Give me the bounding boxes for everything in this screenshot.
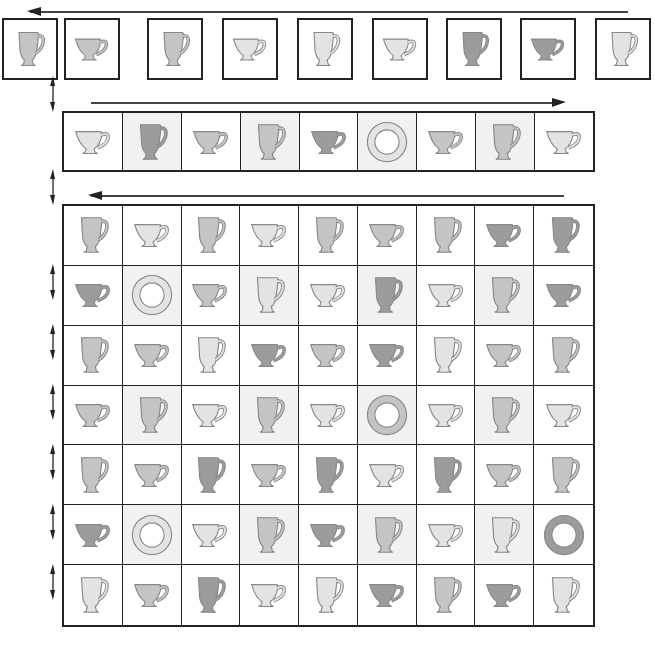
double-arrow-icon bbox=[47, 262, 59, 302]
grid-cell-plate bbox=[534, 505, 593, 565]
grid-cell-mug bbox=[475, 505, 534, 565]
mug-icon bbox=[364, 512, 410, 558]
second-row bbox=[62, 111, 595, 172]
grid-cell-teacup bbox=[417, 266, 476, 326]
grid-cell-teacup bbox=[475, 445, 534, 505]
top-row-cell-mug bbox=[595, 18, 651, 80]
mug-icon bbox=[70, 332, 116, 378]
mug-icon bbox=[8, 27, 52, 71]
top-row-cell-mug bbox=[2, 18, 58, 80]
grid-cell-teacup bbox=[358, 206, 417, 266]
grid-cell-teacup bbox=[299, 266, 358, 326]
mug-icon bbox=[303, 27, 347, 71]
second-row-cell-mug bbox=[123, 113, 182, 170]
grid-cell-mug bbox=[123, 386, 182, 446]
teacup-icon bbox=[70, 119, 116, 165]
mug-icon bbox=[187, 212, 233, 258]
grid-cell-plate bbox=[358, 386, 417, 446]
grid-cell-mug bbox=[182, 326, 241, 386]
top-row-cell-teacup bbox=[222, 18, 278, 80]
mug-icon bbox=[541, 572, 587, 618]
teacup-icon bbox=[187, 272, 233, 318]
grid-cell-teacup bbox=[123, 326, 182, 386]
grid-cell-teacup bbox=[64, 266, 123, 326]
teacup-icon bbox=[129, 332, 175, 378]
grid-cell-mug bbox=[64, 565, 123, 625]
teacup-icon bbox=[423, 512, 469, 558]
grid-cell-teacup bbox=[358, 565, 417, 625]
grid-cell-teacup bbox=[475, 565, 534, 625]
grid-cell-mug bbox=[64, 326, 123, 386]
second-row-cell-teacup bbox=[417, 113, 476, 170]
mug-icon bbox=[246, 512, 292, 558]
grid-cell-teacup bbox=[182, 266, 241, 326]
grid-cell-teacup bbox=[534, 266, 593, 326]
teacup-icon bbox=[188, 119, 234, 165]
teacup-icon bbox=[541, 272, 587, 318]
grid-cell-teacup bbox=[417, 505, 476, 565]
teacup-icon bbox=[246, 572, 292, 618]
mug-icon bbox=[305, 452, 351, 498]
mug-icon bbox=[187, 452, 233, 498]
teacup-icon bbox=[228, 27, 272, 71]
mug-icon bbox=[452, 27, 496, 71]
mug-icon bbox=[305, 572, 351, 618]
top-row-cell-teacup bbox=[372, 18, 428, 80]
teacup-icon bbox=[129, 452, 175, 498]
grid-cell-teacup bbox=[299, 505, 358, 565]
grid-cell-teacup bbox=[64, 505, 123, 565]
teacup-icon bbox=[481, 572, 527, 618]
mug-icon bbox=[481, 512, 527, 558]
teacup-icon bbox=[423, 272, 469, 318]
plate-icon bbox=[541, 512, 587, 558]
grid-cell-teacup bbox=[240, 445, 299, 505]
teacup-icon bbox=[378, 27, 422, 71]
plate-icon bbox=[129, 272, 175, 318]
double-arrow-icon bbox=[47, 382, 59, 422]
grid-cell-plate bbox=[123, 266, 182, 326]
mug-icon bbox=[129, 119, 175, 165]
grid-cell-mug bbox=[358, 266, 417, 326]
grid-cell-mug bbox=[417, 206, 476, 266]
mug-icon bbox=[423, 332, 469, 378]
grid-cell-mug bbox=[475, 386, 534, 446]
grid-cell-teacup bbox=[358, 445, 417, 505]
grid-cell-teacup bbox=[240, 565, 299, 625]
teacup-icon bbox=[423, 119, 469, 165]
mug-icon bbox=[153, 27, 197, 71]
second-row-cell-plate bbox=[358, 113, 417, 170]
grid-cell-mug bbox=[534, 206, 593, 266]
teacup-icon bbox=[541, 392, 587, 438]
double-arrow-icon bbox=[47, 562, 59, 602]
second-row-cell-teacup bbox=[64, 113, 123, 170]
second-row-cell-teacup bbox=[182, 113, 241, 170]
mug-icon bbox=[129, 392, 175, 438]
teacup-icon bbox=[364, 452, 410, 498]
teacup-icon bbox=[70, 272, 116, 318]
grid-cell-mug bbox=[182, 445, 241, 505]
grid-cell-teacup bbox=[299, 386, 358, 446]
grid-cell-mug bbox=[299, 206, 358, 266]
teacup-icon bbox=[187, 512, 233, 558]
teacup-icon bbox=[70, 512, 116, 558]
teacup-icon bbox=[129, 572, 175, 618]
mug-icon bbox=[305, 212, 351, 258]
second-row-cell-mug bbox=[476, 113, 535, 170]
grid-cell-teacup bbox=[240, 326, 299, 386]
mug-icon bbox=[481, 392, 527, 438]
grid-cell-teacup bbox=[123, 565, 182, 625]
teacup-icon bbox=[246, 212, 292, 258]
top-row-cell-mug bbox=[147, 18, 203, 80]
teacup-icon bbox=[364, 212, 410, 258]
teacup-icon bbox=[246, 332, 292, 378]
teacup-icon bbox=[70, 27, 114, 71]
grid-cell-teacup bbox=[240, 206, 299, 266]
mug-icon bbox=[187, 572, 233, 618]
grid-cell-mug bbox=[417, 565, 476, 625]
mug-icon bbox=[70, 572, 116, 618]
teacup-icon bbox=[541, 119, 587, 165]
grid-cell-teacup bbox=[299, 326, 358, 386]
top-arrow-line bbox=[30, 11, 628, 13]
grid-cell-teacup bbox=[123, 206, 182, 266]
mug-icon bbox=[423, 212, 469, 258]
